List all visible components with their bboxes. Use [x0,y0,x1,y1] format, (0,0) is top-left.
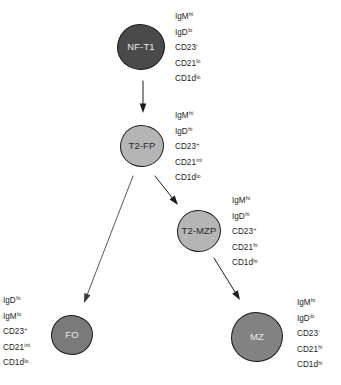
marker-superscript: hi [311,298,316,303]
marker-base: CD23 [297,329,318,339]
marker-superscript: hi [16,296,21,301]
marker-mz-cd23: CD23- [297,329,323,345]
marker-t2-mzp-igd: IgDhi [232,212,258,228]
cell-node-nf-t1[interactable]: NF-T1 [117,24,165,70]
marker-base: CD21 [297,345,318,355]
cell-node-label-fo: FO [65,330,78,340]
marker-mz-cd21: CD21hi [297,345,323,361]
cell-node-t2-mzp[interactable]: T2-MZP [177,210,221,252]
marker-list-fo: IgDhiIgMloCD23+CD21intCD1dlo [3,296,30,374]
marker-base: IgM [3,312,17,322]
marker-base: CD23 [232,227,253,237]
marker-superscript: hi [188,127,193,132]
cell-node-label-t2-fp: T2-FP [129,141,156,151]
marker-superscript: hi [318,345,323,350]
marker-superscript: lo [17,312,22,317]
marker-superscript: + [196,142,200,147]
marker-t2-mzp-cd21: CD21hi [232,243,258,259]
marker-base: IgM [175,111,189,121]
marker-list-t2-fp: IgMhiIgDhiCD23+CD21intCD1dlo [175,111,202,189]
marker-base: CD21 [175,158,196,168]
arrow-nf-t1-to-t2-fp [140,81,147,113]
marker-superscript: hi [245,212,250,217]
marker-list-t2-mzp: IgMhiIgDhiCD23+CD21hiCD1dhi [232,196,258,274]
b-cell-lineage-diagram: NF-T1T2-FPT2-MZPFOMZ IgMhiIgDloCD23-CD21… [0,0,341,385]
arrow-t2-fp-to-fo [84,176,133,303]
marker-superscript: hi [246,196,251,201]
marker-mz-igm: IgMhi [297,298,323,314]
marker-base: CD23 [175,43,196,53]
marker-superscript: lo [196,75,201,80]
marker-fo-cd1d: CD1dlo [3,358,30,374]
marker-base: CD23 [3,327,24,337]
marker-base: CD21 [3,343,24,353]
cell-node-label-mz: MZ [250,332,264,342]
marker-t2-mzp-cd23: CD23+ [232,227,258,243]
marker-base: CD1d [232,258,253,268]
marker-nf-t1-cd1d: CD1dlo [175,74,201,90]
marker-superscript: int [196,158,202,163]
marker-base: CD1d [297,360,318,370]
marker-fo-igd: IgDhi [3,296,30,312]
marker-superscript: - [318,329,320,334]
marker-t2-fp-cd21: CD21int [175,158,202,174]
marker-base: IgM [297,298,311,308]
marker-nf-t1-igd: IgDlo [175,28,201,44]
marker-t2-fp-igd: IgDhi [175,127,202,143]
cell-node-label-t2-mzp: T2-MZP [182,226,217,236]
marker-base: CD21 [232,243,253,253]
marker-base: IgM [175,12,189,22]
marker-superscript: lo [196,59,201,64]
marker-superscript: + [253,227,257,232]
marker-t2-mzp-igm: IgMhi [232,196,258,212]
cell-node-fo[interactable]: FO [51,315,93,355]
marker-t2-mzp-cd1d: CD1dhi [232,258,258,274]
marker-base: CD23 [175,142,196,152]
marker-mz-igd: IgDlo [297,314,323,330]
marker-base: IgD [297,314,310,324]
marker-t2-fp-igm: IgMhi [175,111,202,127]
marker-base: CD1d [175,74,196,84]
marker-superscript: lo [310,314,315,319]
marker-base: IgM [232,196,246,206]
marker-nf-t1-igm: IgMhi [175,12,201,28]
marker-base: CD1d [3,358,24,368]
marker-superscript: lo [24,359,29,364]
marker-base: IgD [175,28,188,38]
marker-superscript: - [196,43,198,48]
marker-base: IgD [232,212,245,222]
marker-superscript: hi [189,111,194,116]
marker-fo-cd21: CD21int [3,343,30,359]
marker-base: IgD [3,296,16,306]
marker-list-nf-t1: IgMhiIgDloCD23-CD21loCD1dlo [175,12,201,90]
marker-base: CD1d [175,173,196,183]
marker-superscript: + [24,327,28,332]
marker-superscript: hi [189,12,194,17]
marker-nf-t1-cd21: CD21lo [175,59,201,75]
cell-node-label-nf-t1: NF-T1 [127,42,154,52]
marker-superscript: hi [253,259,258,264]
edge-layer [0,0,341,385]
marker-fo-igm: IgMlo [3,312,30,328]
marker-mz-cd1d: CD1dhi [297,360,323,376]
marker-base: IgD [175,127,188,137]
marker-superscript: hi [318,361,323,366]
marker-superscript: hi [253,243,258,248]
marker-t2-fp-cd1d: CD1dlo [175,173,202,189]
marker-nf-t1-cd23: CD23- [175,43,201,59]
marker-base: CD21 [175,59,196,69]
marker-list-mz: IgMhiIgDloCD23-CD21hiCD1dhi [297,298,323,376]
marker-superscript: int [24,343,30,348]
marker-superscript: lo [188,28,193,33]
marker-t2-fp-cd23: CD23+ [175,142,202,158]
marker-fo-cd23: CD23+ [3,327,30,343]
cell-node-mz[interactable]: MZ [231,312,283,362]
marker-superscript: lo [196,174,201,179]
cell-node-t2-fp[interactable]: T2-FP [120,125,164,167]
